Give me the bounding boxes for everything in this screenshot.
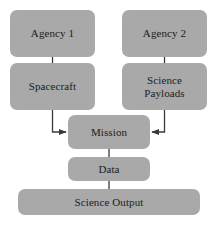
node-data[interactable]: Data [68, 157, 150, 181]
node-science-output[interactable]: Science Output [18, 189, 200, 215]
node-label: Mission [91, 126, 127, 139]
node-science-payloads[interactable]: Science Payloads [122, 63, 207, 110]
node-mission[interactable]: Mission [68, 115, 150, 149]
node-label: Science Payloads [144, 74, 185, 100]
node-label: Spacecraft [29, 80, 76, 93]
node-label: Agency 2 [143, 27, 186, 40]
node-label: Agency 1 [31, 27, 74, 40]
node-spacecraft[interactable]: Spacecraft [10, 63, 95, 110]
node-agency-2[interactable]: Agency 2 [122, 10, 207, 57]
edge-payloads-mission [152, 110, 165, 132]
node-label: Data [98, 163, 119, 176]
edge-spacecraft-mission [53, 110, 67, 132]
node-label: Science Output [75, 196, 144, 209]
flowchart-diagram: Agency 1 Agency 2 Spacecraft Science Pay… [0, 0, 218, 233]
node-agency-1[interactable]: Agency 1 [10, 10, 95, 57]
